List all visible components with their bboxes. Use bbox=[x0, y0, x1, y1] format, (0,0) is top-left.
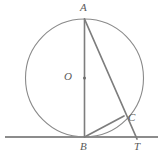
vertex-label-t: T bbox=[134, 141, 140, 152]
geometry-figure: A O C B T bbox=[0, 0, 162, 162]
geometry-canvas bbox=[0, 0, 162, 162]
center-dot bbox=[83, 77, 86, 80]
vertex-label-a: A bbox=[80, 2, 87, 13]
vertex-label-b: B bbox=[80, 141, 87, 152]
vertex-label-c: C bbox=[128, 112, 135, 123]
vertex-label-o: O bbox=[64, 71, 72, 82]
